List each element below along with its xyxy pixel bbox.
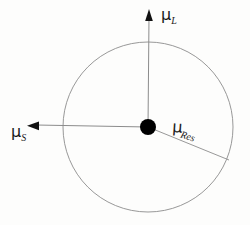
mu-l-symbol: μ bbox=[161, 5, 171, 24]
mu-l-arrowhead-icon bbox=[145, 9, 153, 21]
mu-s-subscript: S bbox=[21, 132, 26, 143]
mu-l-subscript: L bbox=[171, 15, 177, 26]
mu-l-label: μL bbox=[161, 7, 177, 23]
mu-res-label: μRes bbox=[172, 119, 198, 137]
mu-s-symbol: μ bbox=[11, 122, 21, 141]
mu-s-label: μS bbox=[11, 124, 26, 140]
vector-diagram-figure: μL μS μRes bbox=[0, 0, 250, 225]
mu-l-vector-line bbox=[148, 17, 149, 127]
center-dot bbox=[140, 119, 156, 135]
diagram-canvas bbox=[0, 0, 250, 225]
mu-s-arrowhead-icon bbox=[27, 122, 39, 131]
mu-s-vector-line bbox=[36, 125, 148, 127]
